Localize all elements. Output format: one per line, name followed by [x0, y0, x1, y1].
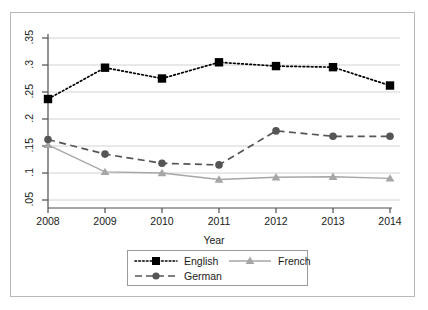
- data-point-marker: [44, 95, 52, 103]
- y-axis-tick-label: .15: [24, 134, 35, 156]
- legend-label-english: English: [184, 255, 218, 267]
- data-point-marker: [158, 74, 166, 82]
- legend-label-french: French: [278, 255, 311, 267]
- data-point-marker: [44, 136, 52, 144]
- series-line: [48, 62, 390, 99]
- legend-item-french: French: [228, 254, 311, 268]
- x-axis-ticks: [48, 208, 390, 213]
- y-axis-tick-label: .3: [24, 53, 35, 75]
- data-point-marker: [101, 64, 109, 72]
- data-point-marker: [329, 63, 337, 71]
- y-axis-tick-label: .1: [24, 161, 35, 183]
- x-axis-tick-label: 2014: [370, 216, 410, 227]
- x-axis-tick-label: 2013: [313, 216, 353, 227]
- x-axis-tick-label: 2010: [142, 216, 182, 227]
- legend-sample-french: [228, 254, 272, 268]
- x-axis-tick-label: 2011: [199, 216, 239, 227]
- data-point-marker: [386, 132, 394, 140]
- y-axis-tick-label: .2: [24, 107, 35, 129]
- legend-item-german: German: [134, 269, 222, 283]
- data-point-marker: [215, 58, 223, 66]
- series-line: [48, 131, 390, 165]
- data-point-marker: [329, 132, 337, 140]
- legend-label-german: German: [184, 270, 222, 282]
- y-axis-tick-label: .05: [24, 188, 35, 210]
- data-point-marker: [272, 127, 280, 135]
- series-german: [44, 127, 394, 169]
- y-axis-tick-label: .35: [24, 26, 35, 48]
- data-point-marker: [386, 81, 394, 89]
- data-point-marker: [215, 161, 223, 169]
- chart-figure: .35.3.25.2.15.1.05 200820092010201120122…: [0, 0, 428, 310]
- legend-item-english: English: [134, 254, 218, 268]
- legend-sample-english: [134, 254, 178, 268]
- data-series-layer: [44, 58, 395, 183]
- chart-legend: English French German: [127, 250, 308, 286]
- y-axis-tick-label: .25: [24, 80, 35, 102]
- gridlines: [48, 38, 400, 200]
- data-point-marker: [272, 62, 280, 70]
- legend-sample-german: [134, 269, 178, 283]
- y-axis-ticks: [42, 38, 48, 200]
- data-point-marker: [158, 159, 166, 167]
- x-axis-tick-label: 2009: [85, 216, 125, 227]
- x-axis-title: Year: [0, 234, 428, 246]
- x-axis-tick-label: 2012: [256, 216, 296, 227]
- data-point-marker: [101, 150, 109, 158]
- x-axis-tick-label: 2008: [28, 216, 68, 227]
